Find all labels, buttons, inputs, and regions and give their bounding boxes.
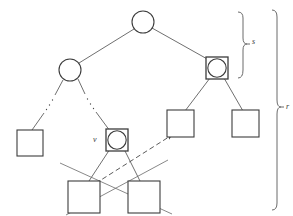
node-leaf-bottom-left[interactable] [68, 181, 100, 213]
edge-left-inner-far-left-a [55, 80, 63, 95]
edge-left-inner-node-v-b [96, 112, 110, 131]
diagram-canvas [0, 0, 293, 216]
edge-dot [46, 109, 47, 110]
edge-layer [32, 28, 243, 181]
node-right-inner[interactable] [206, 57, 228, 79]
edge-left-inner-far-left-b [32, 113, 44, 130]
node-leaf-far-left[interactable] [17, 130, 43, 156]
node-leaf-bottom-right[interactable] [128, 181, 160, 213]
edge-node-v-bottom-left [89, 149, 110, 181]
edge-dot [87, 98, 88, 99]
edge-right-inner-leaf-right [224, 78, 243, 111]
label-node-v: v [93, 136, 97, 144]
edge-dot [93, 108, 94, 109]
node-root[interactable] [132, 11, 154, 33]
label-brace-top: s [252, 38, 255, 46]
edge-left-inner-node-v-a [78, 79, 85, 94]
edge-root-left-inner [79, 29, 134, 63]
edge-dot [52, 99, 53, 100]
node-leaf-mid-right[interactable] [167, 110, 194, 137]
node-right-inner-circle [208, 59, 226, 77]
node-v[interactable] [106, 129, 128, 151]
edge-dot [49, 104, 50, 105]
edge-right-inner-leaf-mid [185, 78, 210, 111]
node-left-inner[interactable] [59, 59, 81, 81]
brace-full [272, 10, 281, 210]
tree-diagram-figure: v s r [0, 0, 293, 216]
node-leaf-right[interactable] [232, 110, 259, 137]
brace-top [238, 12, 247, 78]
node-v-circle [108, 131, 126, 149]
label-brace-full: r [286, 103, 289, 111]
edge-dot [90, 103, 91, 104]
node-layer [17, 11, 259, 213]
edge-root-right-inner [152, 28, 209, 60]
